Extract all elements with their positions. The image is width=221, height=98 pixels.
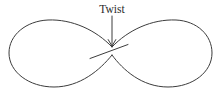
diagram-canvas: Twist [0,0,221,98]
twist-diagram-figure: Twist [0,0,221,98]
twist-label: Twist [99,3,125,15]
